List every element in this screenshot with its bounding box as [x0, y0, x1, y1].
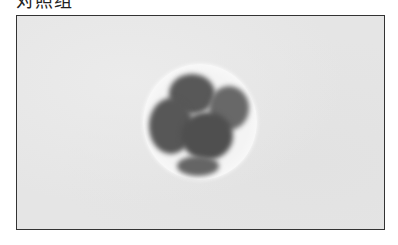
figure-caption: 对照组: [16, 0, 73, 11]
embryo-zona: [143, 64, 257, 180]
cell-bottom: [177, 156, 219, 176]
cell-center: [181, 112, 233, 160]
micrograph-panel: [16, 15, 385, 230]
